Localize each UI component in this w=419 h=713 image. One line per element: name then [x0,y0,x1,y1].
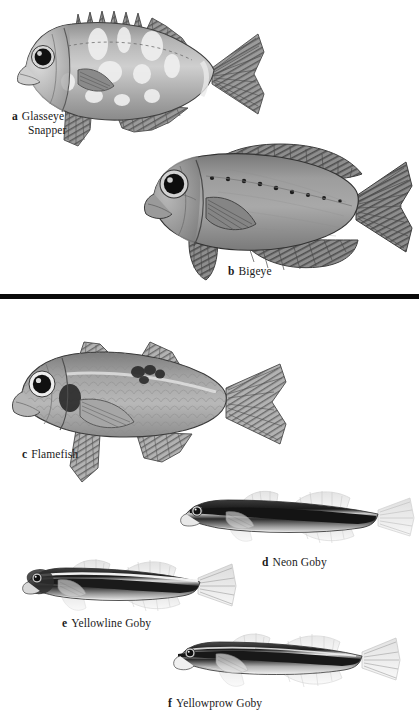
caption-neon-goby: dNeon Goby [262,556,327,570]
caudal-fin [212,34,264,114]
caption-bigeye: bBigeye [228,265,272,279]
figure-name-a-line1: Glasseye [22,110,64,122]
figure-bigeye [140,136,416,281]
eye [29,371,55,397]
figure-letter-e: e [62,617,67,629]
figure-letter-f: f [168,697,172,709]
figure-letter-b: b [228,265,235,277]
eye [32,573,42,583]
eye [185,648,195,658]
figure-name-d: Neon Goby [273,556,327,568]
figure-flamefish [8,330,298,490]
caudal-fin [378,498,414,536]
eye [160,170,188,198]
figure-name-a-line2: Snapper [28,124,66,138]
eye [32,46,55,69]
figure-name-e: Yellowline Goby [71,617,151,629]
figure-name-c: Flamefish [31,448,78,460]
figure-letter-c: c [22,448,27,460]
section-divider [0,294,419,299]
fish-identification-plate: aGlasseye Snapper [0,0,419,713]
caudal-fin [356,162,412,252]
caption-yellowline-goby: eYellowline Goby [62,617,151,631]
eye [192,506,202,516]
caudal-fin [226,364,286,444]
caption-flamefish: cFlamefish [22,448,78,462]
caudal-fin [198,564,236,606]
figure-letter-a: a [12,110,18,122]
caption-yellowprow-goby: fYellowprow Goby [168,697,262,711]
figure-letter-d: d [262,556,269,568]
shoulder-blotch [59,384,81,412]
figure-yellowline-goby [22,556,238,618]
figure-name-b: Bigeye [239,265,272,277]
caudal-fin [362,638,400,680]
figure-yellowprow-goby [172,630,402,692]
figure-neon-goby [180,488,416,550]
caption-glasseye-snapper: aGlasseye Snapper [12,110,66,137]
figure-name-f: Yellowprow Goby [176,697,262,709]
